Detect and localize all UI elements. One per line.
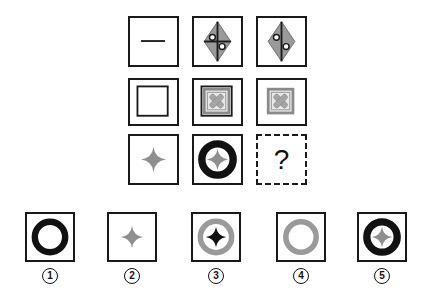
black-ring-gray-star-icon — [359, 214, 405, 260]
grid-cell-r3c2 — [192, 134, 243, 185]
option-1-label: 1 — [42, 268, 58, 284]
option-5-label: 5 — [374, 268, 390, 284]
nested-square-gray-x-icon — [194, 80, 241, 124]
option-5[interactable] — [357, 212, 407, 262]
diamond-vertical-line-circles-icon — [258, 18, 305, 65]
grid-cell-r3c3-unknown: ? — [256, 134, 307, 185]
black-ring-icon — [27, 214, 73, 260]
option-1[interactable] — [25, 212, 75, 262]
grid-cell-r2c2 — [192, 78, 243, 126]
option-2[interactable] — [107, 212, 157, 262]
gray-ring-black-star-icon — [193, 214, 239, 260]
option-3-label: 3 — [208, 268, 224, 284]
question-mark: ? — [258, 136, 305, 183]
gray-star-icon — [130, 136, 177, 183]
option-4-label: 4 — [293, 268, 309, 284]
grid-cell-r1c3 — [256, 16, 307, 67]
nested-square-icon — [130, 80, 177, 124]
grid-cell-r1c2 — [192, 16, 243, 67]
horizontal-line-icon — [130, 18, 177, 65]
grid-cell-r2c1 — [128, 78, 179, 126]
option-2-label: 2 — [124, 268, 140, 284]
option-3[interactable] — [191, 212, 241, 262]
gray-ring-icon — [278, 214, 324, 260]
gray-square-gray-x-icon — [258, 80, 305, 124]
diamond-cross-circles-icon — [194, 18, 241, 65]
grid-cell-r1c1 — [128, 16, 179, 67]
black-ring-gray-star-icon — [194, 136, 241, 183]
grid-cell-r2c3 — [256, 78, 307, 126]
option-4[interactable] — [276, 212, 326, 262]
grid-cell-r3c1 — [128, 134, 179, 185]
gray-star-icon — [109, 214, 155, 260]
